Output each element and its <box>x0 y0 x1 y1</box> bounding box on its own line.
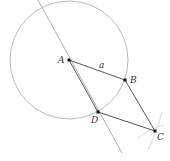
segment-BC <box>125 80 155 131</box>
segment-DC <box>98 112 155 131</box>
label-A: A <box>57 55 65 65</box>
line-through-A-D <box>38 0 122 153</box>
point-A <box>68 59 71 62</box>
segment-AD <box>69 60 98 112</box>
segment-AB <box>69 60 125 80</box>
rhombus-construction-diagram: A B C D a <box>0 0 170 161</box>
point-D <box>97 111 100 114</box>
label-C: C <box>157 132 164 142</box>
side-label-a: a <box>99 60 104 70</box>
label-B: B <box>129 75 137 85</box>
point-B <box>124 79 127 82</box>
label-D: D <box>90 115 98 125</box>
